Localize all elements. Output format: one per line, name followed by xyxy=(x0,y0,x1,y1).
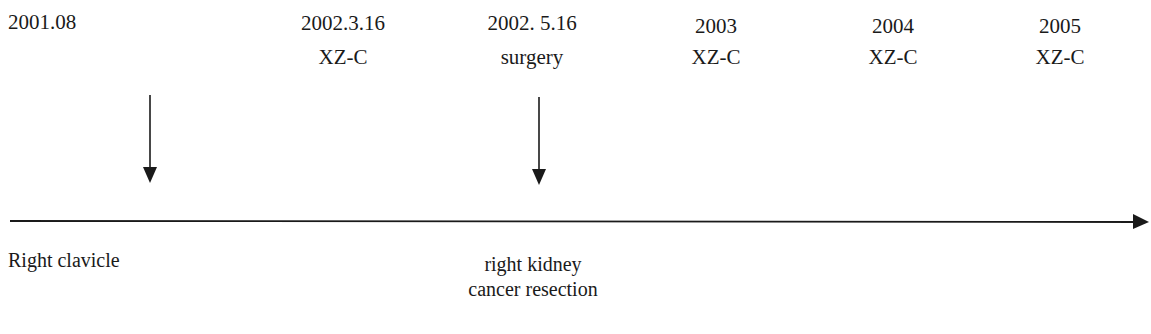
event-label-xzc: XZ-C xyxy=(692,45,741,69)
event-label-xzc: XZ-C xyxy=(869,45,918,69)
event-date-2003: 2003 xyxy=(695,14,737,38)
event-note-right-clavicle: Right clavicle xyxy=(8,248,120,272)
event-note-right-kidney: right kidney xyxy=(484,252,581,276)
event-note-cancer-resection: cancer resection xyxy=(468,277,597,301)
event-date-2005: 2005 xyxy=(1039,14,1081,38)
right-arrow-icon xyxy=(1133,214,1149,229)
event-label-xzc: XZ-C xyxy=(319,45,368,69)
event-date-2001-08: 2001.08 xyxy=(8,10,76,34)
event-date-2004: 2004 xyxy=(872,14,914,38)
timeline-axis xyxy=(10,214,1149,229)
down-arrow-icon xyxy=(143,95,157,183)
down-arrow-icon xyxy=(532,97,546,185)
event-date-2002-3-16: 2002.3.16 xyxy=(301,11,385,35)
event-label-xzc: XZ-C xyxy=(1036,45,1085,69)
event-label-surgery: surgery xyxy=(501,45,564,69)
event-date-2002-5-16: 2002. 5.16 xyxy=(487,11,576,35)
